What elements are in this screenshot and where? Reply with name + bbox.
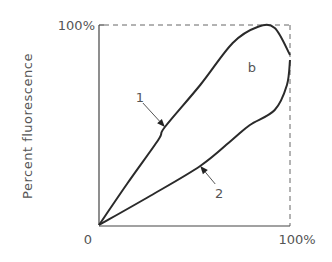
- annotation-1-arrow-line: [143, 103, 160, 121]
- annotation-b-label: b: [248, 60, 256, 75]
- annotation-2-label: 2: [215, 186, 223, 201]
- annotation-2-arrow-line: [205, 172, 215, 184]
- series-2-curve: [99, 60, 290, 225]
- x-tick-label-100: 100%: [278, 232, 315, 247]
- chart: Percent fluorescence 100% 0 100% 1 2 b: [0, 0, 332, 262]
- series-1-curve: [99, 25, 290, 225]
- annotation-1-label: 1: [136, 90, 144, 105]
- annotation-1: 1: [136, 90, 165, 127]
- y-axis-label: Percent fluorescence: [20, 53, 35, 199]
- y-tick-label-100: 100%: [58, 18, 95, 33]
- annotation-2: 2: [200, 166, 223, 201]
- x-tick-label-0: 0: [84, 232, 92, 247]
